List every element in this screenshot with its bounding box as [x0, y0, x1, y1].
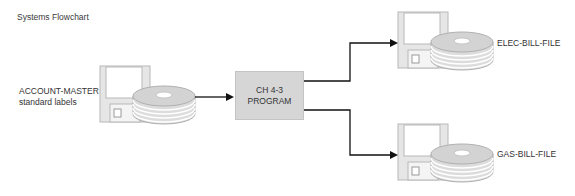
arrowhead-icon: [390, 151, 398, 159]
output-file-label-elec: ELEC-BILL-FILE: [497, 38, 560, 49]
process-box: CH 4-3 PROGRAM: [235, 71, 304, 120]
input-file-name: ACCOUNT-MASTER: [19, 86, 99, 97]
input-file-label: ACCOUNT-MASTER standard labels: [19, 86, 99, 108]
arrowhead-icon: [226, 93, 234, 101]
input-file-subtitle: standard labels: [19, 97, 99, 108]
process-label-line1: CH 4-3: [256, 85, 283, 96]
arrow-program-to-gas: [304, 110, 390, 155]
arrowhead-icon: [390, 39, 398, 47]
output-file-label-gas: GAS-BILL-FILE: [497, 149, 556, 160]
arrow-program-to-elec: [304, 43, 390, 81]
process-label-line2: PROGRAM: [248, 96, 292, 107]
